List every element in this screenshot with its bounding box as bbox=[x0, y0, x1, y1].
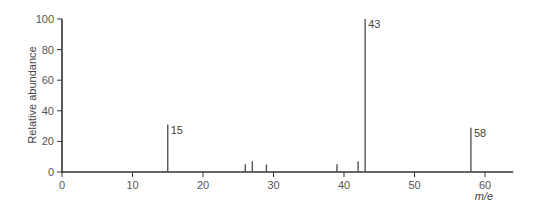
y-tick-label: 100 bbox=[36, 13, 54, 25]
peak-label: 43 bbox=[368, 18, 380, 30]
x-tick-label: 40 bbox=[338, 179, 350, 191]
y-tick-label: 20 bbox=[42, 135, 54, 147]
x-tick-label: 30 bbox=[267, 179, 279, 191]
x-tick-label: 50 bbox=[408, 179, 420, 191]
x-axis: 0102030405060 bbox=[59, 172, 513, 191]
y-tick-label: 40 bbox=[42, 105, 54, 117]
y-tick-label: 60 bbox=[42, 74, 54, 86]
peak-label: 58 bbox=[474, 127, 486, 139]
y-tick-label: 0 bbox=[48, 166, 54, 178]
y-axis-title: Relative abundance bbox=[26, 46, 38, 143]
peaks: 154358 bbox=[168, 18, 486, 172]
x-axis-title: m/e bbox=[475, 190, 493, 202]
y-tick-label: 80 bbox=[42, 44, 54, 56]
x-tick-label: 0 bbox=[59, 179, 65, 191]
x-tick-label: 20 bbox=[197, 179, 209, 191]
peak-label: 15 bbox=[171, 124, 183, 136]
mass-spectrum-chart: 020406080100 0102030405060 154358 Relati… bbox=[0, 0, 535, 209]
y-axis: 020406080100 bbox=[36, 13, 62, 178]
x-tick-label: 10 bbox=[126, 179, 138, 191]
